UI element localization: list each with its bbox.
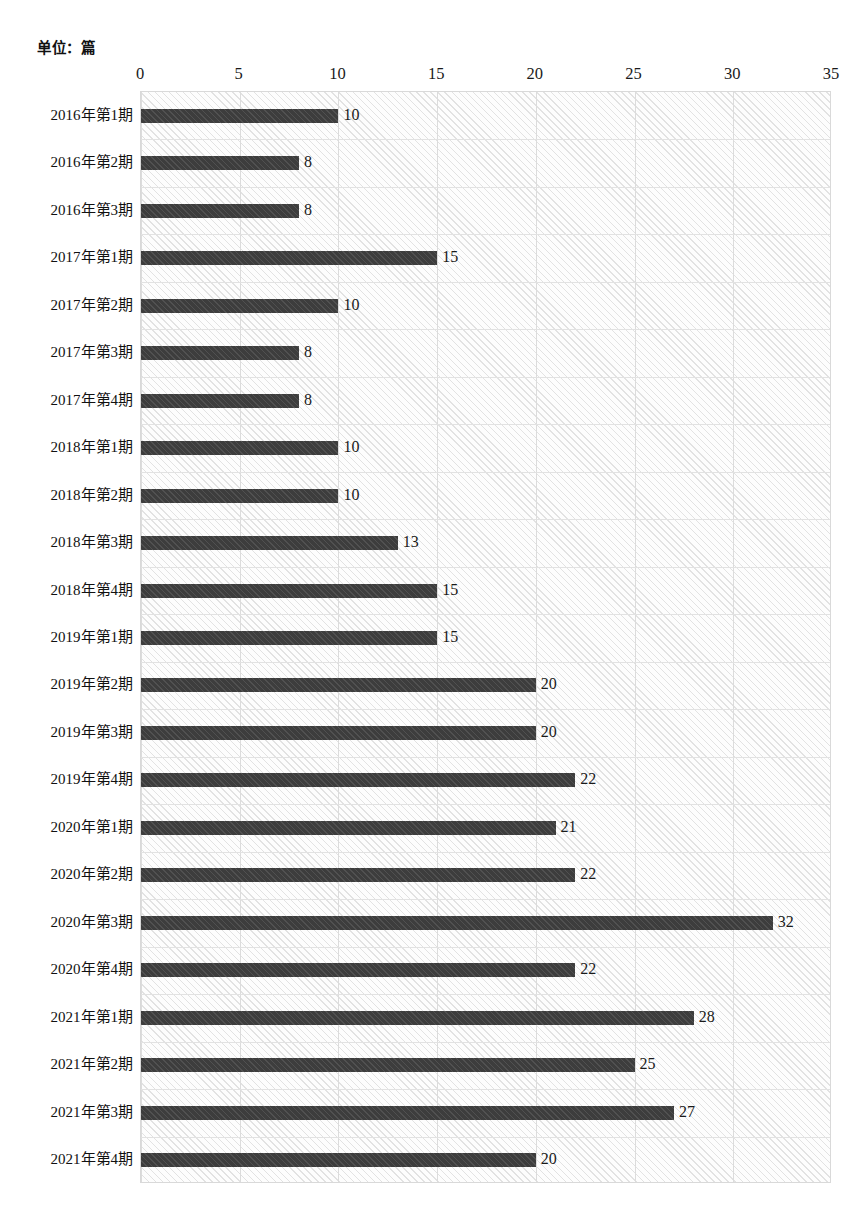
horizontal-gridline [141,234,830,235]
horizontal-gridline [141,1137,830,1138]
bar [141,773,575,787]
category-label: 2020年第4期 [51,962,134,977]
bar-value-label: 10 [343,487,359,503]
x-axis-tick-label: 10 [329,64,346,84]
bar-value-label: 15 [442,249,458,265]
bar [141,299,338,313]
category-label: 2021年第4期 [51,1152,134,1167]
bar [141,1153,536,1167]
horizontal-gridline [141,852,830,853]
horizontal-gridline [141,947,830,948]
x-axis-tick-label: 35 [823,64,840,84]
bar-value-label: 20 [541,1151,557,1167]
bar [141,394,299,408]
horizontal-gridline [141,1042,830,1043]
bar [141,1011,694,1025]
category-label: 2018年第3期 [51,535,134,550]
category-label: 2020年第3期 [51,914,134,929]
bar-value-label: 8 [304,392,312,408]
bar-value-label: 22 [580,961,596,977]
horizontal-gridline [141,472,830,473]
bar [141,441,338,455]
bar-value-label: 22 [580,771,596,787]
horizontal-gridline [141,1089,830,1090]
bar [141,916,773,930]
category-label: 2021年第2期 [51,1057,134,1072]
horizontal-gridline [141,994,830,995]
x-axis-tick-label: 30 [724,64,741,84]
category-label: 2019年第3期 [51,724,134,739]
bar-value-label: 20 [541,724,557,740]
category-label: 2018年第4期 [51,582,134,597]
vertical-gridline [733,92,734,1182]
x-axis-tick-label: 5 [235,64,243,84]
bar [141,489,338,503]
bar-value-label: 27 [679,1104,695,1120]
bar-value-label: 8 [304,202,312,218]
category-label: 2019年第2期 [51,677,134,692]
horizontal-gridline [141,139,830,140]
bar-value-label: 13 [403,534,419,550]
category-label: 2017年第4期 [51,392,134,407]
horizontal-gridline [141,282,830,283]
bar [141,1058,635,1072]
category-label: 2019年第4期 [51,772,134,787]
horizontal-gridline [141,709,830,710]
bar [141,584,437,598]
category-label: 2016年第1期 [51,107,134,122]
bar [141,1106,674,1120]
x-axis-tick-label: 15 [428,64,445,84]
horizontal-gridline [141,519,830,520]
bar-value-label: 21 [561,819,577,835]
bar-value-label: 8 [304,154,312,170]
horizontal-gridline [141,567,830,568]
horizontal-gridline [141,757,830,758]
unit-caption: 单位：篇 [37,36,95,57]
bar [141,156,299,170]
bar [141,631,437,645]
category-label: 2017年第1期 [51,250,134,265]
x-axis-tick-label: 20 [527,64,544,84]
bar-value-label: 22 [580,866,596,882]
category-label: 2017年第3期 [51,345,134,360]
category-label: 2021年第3期 [51,1104,134,1119]
category-label: 2018年第2期 [51,487,134,502]
horizontal-gridline [141,662,830,663]
bar-value-label: 28 [699,1009,715,1025]
bar-value-label: 10 [343,297,359,313]
bar [141,346,299,360]
bar-value-label: 15 [442,629,458,645]
category-label: 2020年第2期 [51,867,134,882]
bar [141,109,338,123]
x-axis-tick-label: 25 [625,64,642,84]
bar-value-label: 10 [343,107,359,123]
bar-value-label: 15 [442,582,458,598]
horizontal-gridline [141,377,830,378]
category-label: 2021年第1期 [51,1009,134,1024]
bar [141,204,299,218]
bar [141,726,536,740]
horizontal-gridline [141,899,830,900]
category-label: 2016年第3期 [51,202,134,217]
bar-value-label: 8 [304,344,312,360]
chart-plot-area [140,91,831,1183]
bar [141,536,398,550]
horizontal-gridline [141,424,830,425]
horizontal-gridline [141,187,830,188]
category-label: 2018年第1期 [51,440,134,455]
bar-value-label: 20 [541,676,557,692]
horizontal-gridline [141,614,830,615]
bar [141,251,437,265]
bar [141,963,575,977]
bar [141,868,575,882]
category-label: 2016年第2期 [51,155,134,170]
bar-value-label: 25 [640,1056,656,1072]
bar-value-label: 10 [343,439,359,455]
category-label: 2017年第2期 [51,297,134,312]
bar [141,821,556,835]
horizontal-gridline [141,804,830,805]
bar-value-label: 32 [778,914,794,930]
category-label: 2020年第1期 [51,819,134,834]
x-axis-tick-row: 05101520253035 [0,64,855,90]
bar [141,678,536,692]
